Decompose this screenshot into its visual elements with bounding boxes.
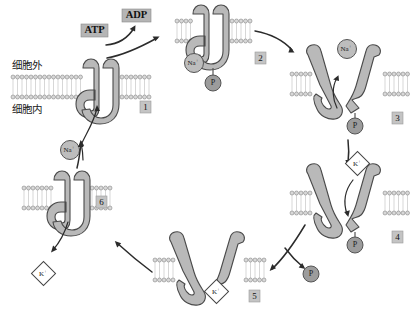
svg-text:3: 3 — [395, 113, 400, 123]
svg-text:4: 4 — [395, 232, 400, 242]
atp-label: ATP — [81, 24, 108, 37]
ion-k-step5: K+ — [204, 279, 228, 303]
atp-label-text: ATP — [84, 24, 105, 35]
arrow-atp-consume — [106, 28, 134, 45]
label-extracellular: 细胞外 — [12, 57, 42, 72]
membrane-step1-left — [10, 75, 83, 99]
ion-na-step1: Na+ — [61, 141, 80, 160]
arrow-k-in-step4 — [345, 180, 353, 214]
phosphate-step2: P — [205, 68, 221, 91]
svg-text:2: 2 — [258, 53, 263, 63]
svg-text:P: P — [309, 269, 314, 278]
ion-k-step6: K+ — [31, 261, 55, 285]
pump-protein-step4-left — [307, 164, 343, 238]
membrane-step3-left — [290, 72, 312, 96]
step-badge-2: 2 — [255, 52, 266, 64]
membrane-step3-right — [383, 72, 410, 96]
arrow-step4-to-step5 — [272, 225, 305, 269]
pump-cycle-diagram: Na+ 1 ATP ADP — [0, 0, 416, 322]
arrow-step3-to-step4 — [348, 140, 349, 163]
step-3-group: Na+ P 3 — [290, 40, 410, 135]
phosphate-released: P — [303, 266, 319, 282]
pump-protein-step4-right — [346, 164, 380, 232]
membrane-step5-right — [244, 258, 266, 282]
label-intracellular: 细胞内 — [12, 101, 42, 116]
arrow-step2-to-step3 — [255, 31, 292, 50]
membrane-step4-left — [290, 191, 312, 215]
arrow-adp-release — [107, 38, 157, 58]
step-badge-6: 6 — [96, 196, 107, 208]
figure-canvas: Na+ 1 ATP ADP — [0, 0, 416, 322]
svg-text:6: 6 — [99, 197, 104, 207]
svg-text:1: 1 — [143, 102, 148, 112]
membrane-step4-right — [383, 191, 410, 215]
phosphate-step3: P — [347, 113, 363, 134]
step-badge-4: 4 — [392, 231, 403, 243]
arrow-phosphate-release — [285, 248, 303, 267]
pump-protein-step5-left — [170, 232, 206, 305]
adp-label: ADP — [122, 9, 151, 22]
step-6-group: K+ 6 — [22, 171, 112, 286]
step-4-group: K+ P 4 — [290, 151, 410, 253]
membrane-step2-right — [230, 19, 252, 43]
atp-adp-reaction: ATP ADP — [81, 9, 160, 58]
membrane-step5-left — [153, 258, 175, 282]
step-badge-5: 5 — [249, 290, 260, 302]
svg-text:P: P — [211, 78, 216, 87]
svg-text:P: P — [353, 121, 358, 130]
svg-text:5: 5 — [252, 291, 257, 301]
membrane-step1-right — [120, 75, 151, 99]
svg-text:P: P — [353, 240, 358, 249]
adp-label-text: ADP — [126, 9, 148, 20]
step-2-group: Na+ P 2 — [175, 5, 266, 91]
step-badge-1: 1 — [140, 101, 151, 113]
arrow-step5-to-step6 — [117, 243, 152, 272]
ion-na-step3: Na+ — [338, 40, 357, 59]
membrane-step6-left — [22, 186, 53, 210]
step-5-group: K+ 5 — [153, 232, 266, 305]
phosphate-step4: P — [347, 232, 363, 253]
step-badge-3: 3 — [392, 112, 403, 124]
ion-na-step2: Na+ — [185, 54, 204, 73]
